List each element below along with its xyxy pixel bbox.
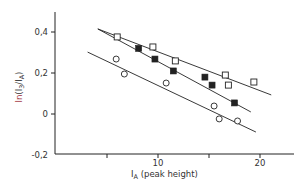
y-tick-label: 0	[43, 109, 48, 119]
data-point-filled-squares	[152, 56, 158, 62]
y-ticks: 0,40,20-0,2	[31, 27, 55, 160]
y-axis-label-ln: ln	[14, 95, 24, 103]
data-point-open-circles	[163, 80, 169, 86]
data-point-open-squares	[251, 79, 257, 85]
fit-lines	[88, 29, 272, 132]
data-point-open-squares	[222, 72, 228, 78]
data-point-open-circles	[216, 116, 222, 122]
y-tick-label: 0,4	[34, 27, 48, 37]
x-tick-label: 20	[255, 158, 266, 168]
x-ticks: 1020	[107, 154, 265, 168]
data-point-filled-squares	[170, 68, 176, 74]
data-point-filled-squares	[232, 100, 238, 106]
data-point-open-squares	[150, 44, 156, 50]
y-axis-label-close: )	[14, 72, 24, 75]
chart: 0,40,20-0,2 1020 ln(I3/IA) IA (peak heig…	[0, 0, 308, 188]
axes	[55, 12, 294, 154]
x-axis-label: IA (peak height)	[131, 169, 198, 181]
data-point-filled-squares	[136, 45, 142, 51]
y-tick-label: 0,2	[34, 68, 48, 78]
x-tick-label: 10	[153, 158, 164, 168]
y-axis-label: ln(I3/IA)	[14, 72, 26, 103]
fit-line-open-squares	[98, 29, 271, 95]
data-point-open-circles	[211, 103, 217, 109]
y-tick-label: -0,2	[31, 150, 48, 160]
markers	[113, 34, 257, 124]
data-point-open-circles	[235, 118, 241, 124]
x-axis-label-rest: (peak height)	[138, 169, 198, 179]
data-point-filled-squares	[202, 74, 208, 80]
data-point-open-circles	[113, 56, 119, 62]
data-point-open-squares	[225, 82, 231, 88]
data-point-open-circles	[121, 71, 127, 77]
data-point-open-squares	[172, 58, 178, 64]
data-point-open-squares	[114, 34, 120, 40]
fit-line-open-circles	[88, 52, 256, 132]
data-point-filled-squares	[209, 82, 215, 88]
